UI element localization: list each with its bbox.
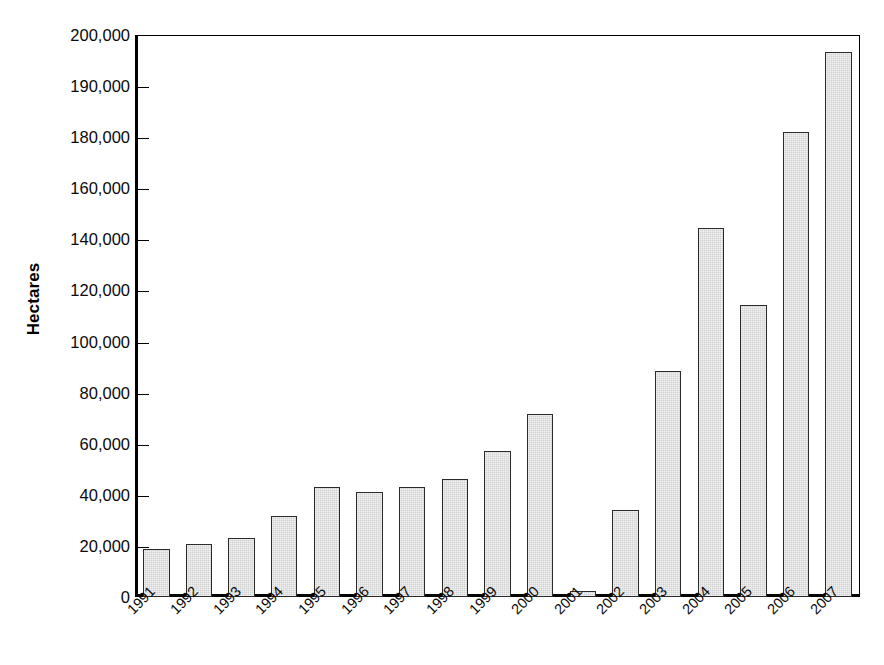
y-axis-tick-label: 100,000 bbox=[46, 332, 130, 351]
bar bbox=[442, 479, 468, 597]
y-axis-tick-label: 180,000 bbox=[46, 128, 130, 147]
bar-chart: Hectares 020,00040,00060,00080,000100,00… bbox=[0, 0, 884, 665]
y-axis-tick-label: 120,000 bbox=[46, 281, 130, 300]
bar bbox=[698, 228, 724, 598]
bar bbox=[484, 451, 510, 597]
y-axis-title-label: Hectares bbox=[24, 262, 44, 335]
y-axis-tick-labels: 020,00040,00060,00080,000100,000120,0001… bbox=[46, 35, 130, 597]
y-axis-tick-label: 80,000 bbox=[46, 383, 130, 402]
bar bbox=[655, 371, 681, 597]
bar bbox=[314, 487, 340, 597]
bar bbox=[783, 132, 809, 597]
bar bbox=[825, 52, 851, 597]
y-axis-tick-label: 200,000 bbox=[46, 26, 130, 45]
bar bbox=[740, 305, 766, 597]
bar bbox=[527, 414, 553, 597]
x-axis-tick-labels: 1991199219931994199519961997199819992000… bbox=[135, 600, 860, 662]
y-axis-tick-label: 160,000 bbox=[46, 179, 130, 198]
y-axis-tick-label: 140,000 bbox=[46, 230, 130, 249]
y-axis-tick-label: 40,000 bbox=[46, 485, 130, 504]
y-axis-tick-label: 60,000 bbox=[46, 434, 130, 453]
bar bbox=[399, 487, 425, 597]
bar bbox=[356, 492, 382, 597]
bars-container bbox=[135, 35, 860, 597]
y-axis-tick-label: 0 bbox=[46, 588, 130, 607]
y-axis-tick-label: 20,000 bbox=[46, 536, 130, 555]
y-axis-tick-label: 190,000 bbox=[46, 77, 130, 96]
